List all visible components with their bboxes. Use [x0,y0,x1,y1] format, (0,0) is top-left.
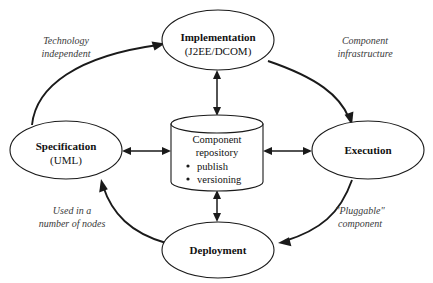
node-specification-title: Specification [36,140,97,152]
diagram-canvas: Implementation (J2EE/DCOM) Specification… [0,0,433,283]
component-lifecycle-diagram: Implementation (J2EE/DCOM) Specification… [0,0,433,283]
repository-arrow-deployment [213,190,221,222]
cycle-arrow-deployment-to-specification [99,179,166,243]
repository-arrow-implementation [213,70,221,116]
repository-bullet-versioning: versioning [197,174,242,185]
node-execution-title: Execution [344,144,391,156]
arrow-head-icon [213,70,221,79]
node-implementation-title: Implementation [180,31,255,43]
node-specification[interactable]: Specification (UML) [10,121,122,179]
edge-label-line-1: Used in a [53,205,91,216]
node-implementation-subtitle: (J2EE/DCOM) [185,45,252,58]
bullet-dot-icon [186,177,189,180]
repository-arrow-specification [122,147,171,155]
repository-bullet-publish: publish [197,161,229,172]
component-repository-cylinder[interactable]: Component repository publish versioning [171,115,263,191]
cycle-arc-path [268,61,349,118]
cylinder-top-icon [171,115,263,133]
arrow-head-icon [162,147,171,155]
repository-arrow-execution [263,147,312,155]
arrow-head-icon [278,237,291,246]
edge-label-line-2: number of nodes [39,218,106,229]
edge-label-used-in-a-number-of-nodes: Used in a number of nodes [39,205,106,229]
edge-label-line-2: infrastructure [337,48,393,59]
bullet-dot-icon [186,164,189,167]
arrow-head-icon [99,179,108,193]
edge-label-pluggable-component: "Pluggable" component [335,205,385,229]
edge-label-technology-independent: Technology independent [42,35,91,59]
edge-label-line-1: Component [342,35,388,46]
edge-label-line-1: Technology [43,35,89,46]
cycle-arc-path [103,186,166,243]
edge-label-component-infrastructure: Component infrastructure [337,35,393,59]
repository-line-2: repository [196,147,239,158]
edge-label-line-2: component [338,218,382,229]
cycle-arrow-implementation-to-execution [268,61,353,125]
node-specification-subtitle: (UML) [50,154,82,167]
node-implementation[interactable]: Implementation (J2EE/DCOM) [162,10,274,70]
arrow-head-icon [122,147,131,155]
repository-line-1: Component [193,134,242,145]
arrow-head-icon [303,147,312,155]
node-execution[interactable]: Execution [312,121,424,179]
node-deployment-title: Deployment [190,244,247,256]
edge-label-line-1: "Pluggable" [335,205,385,216]
edge-label-line-2: independent [42,48,91,59]
arrow-head-icon [213,213,221,222]
node-deployment[interactable]: Deployment [162,222,274,278]
arrow-head-icon [263,147,272,155]
